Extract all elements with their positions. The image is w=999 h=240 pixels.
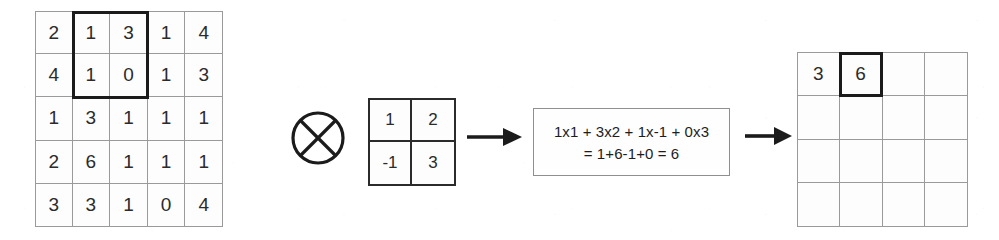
output-cell-1-1 (840, 96, 883, 140)
input-cell-3-4: 1 (185, 141, 223, 184)
input-cell-0-1: 1 (73, 11, 111, 54)
kernel-cell-1-1: 3 (412, 142, 456, 186)
input-cell-3-0: 2 (35, 141, 73, 184)
output-cell-2-0 (797, 140, 840, 184)
input-cell-4-3: 0 (148, 184, 186, 227)
output-cell-0-3 (925, 52, 968, 96)
input-cell-2-2: 1 (110, 97, 148, 140)
input-cell-1-0: 4 (35, 54, 73, 97)
input-cell-0-0: 2 (35, 11, 73, 54)
input-cell-1-4: 3 (185, 54, 223, 97)
formula-box: 1x1 + 3x2 + 1x-1 + 0x3 = 1+6-1+0 = 6 (533, 108, 730, 176)
input-cell-4-4: 4 (185, 184, 223, 227)
input-cell-2-1: 3 (73, 97, 111, 140)
input-matrix: 2 1 3 1 4 4 1 0 1 3 1 3 1 1 1 2 6 1 1 1 … (35, 11, 223, 227)
input-cell-2-0: 1 (35, 97, 73, 140)
kernel-cell-1-0: -1 (368, 142, 412, 186)
input-cell-2-4: 1 (185, 97, 223, 140)
input-cell-3-2: 1 (110, 141, 148, 184)
arrow-right-icon-formula-to-output (743, 123, 793, 149)
formula-line-1: 1x1 + 3x2 + 1x-1 + 0x3 (554, 123, 709, 140)
output-cell-3-1 (840, 183, 883, 227)
output-cell-2-1 (840, 140, 883, 184)
formula-line-2: = 1+6-1+0 = 6 (584, 145, 680, 162)
input-cell-0-2: 3 (110, 11, 148, 54)
kernel-cell-0-1: 2 (412, 98, 456, 142)
input-cell-2-3: 1 (148, 97, 186, 140)
output-cell-2-2 (883, 140, 926, 184)
input-cell-4-2: 1 (110, 184, 148, 227)
output-cell-0-1: 6 (840, 52, 883, 96)
input-cell-3-3: 1 (148, 141, 186, 184)
circled-times-icon (290, 110, 346, 166)
input-cell-1-1: 1 (73, 54, 111, 97)
output-cell-0-0: 3 (797, 52, 840, 96)
output-cell-1-0 (797, 96, 840, 140)
output-cell-3-3 (925, 183, 968, 227)
output-matrix: 3 6 (797, 52, 968, 227)
output-cell-1-2 (883, 96, 926, 140)
output-cell-0-2 (883, 52, 926, 96)
arrow-right-icon-kernel-to-formula (465, 124, 523, 150)
output-cell-1-3 (925, 96, 968, 140)
input-cell-1-2: 0 (110, 54, 148, 97)
output-cell-2-3 (925, 140, 968, 184)
input-cell-3-1: 6 (73, 141, 111, 184)
input-cell-4-0: 3 (35, 184, 73, 227)
output-cell-3-2 (883, 183, 926, 227)
output-cell-3-0 (797, 183, 840, 227)
input-cell-0-4: 4 (185, 11, 223, 54)
kernel-matrix: 1 2 -1 3 (368, 98, 456, 186)
input-cell-4-1: 3 (73, 184, 111, 227)
input-cell-0-3: 1 (148, 11, 186, 54)
input-cell-1-3: 1 (148, 54, 186, 97)
kernel-cell-0-0: 1 (368, 98, 412, 142)
